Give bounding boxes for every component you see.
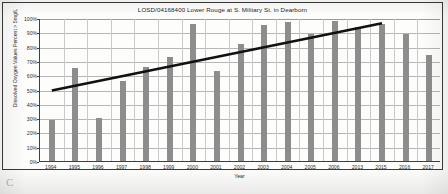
x-tick-label: 1996 (92, 164, 103, 170)
y-tick-label: 10% (3, 145, 37, 151)
page-artifact-mark: C (6, 176, 13, 188)
x-tick-label: 2005 (305, 164, 316, 170)
plot-area (39, 19, 440, 162)
y-tick-label: 40% (3, 102, 37, 108)
x-tick-label: 1997 (116, 164, 127, 170)
x-tick-label: 2001 (210, 164, 221, 170)
x-axis-title: Year (39, 173, 440, 179)
y-tick-label: 90% (3, 30, 37, 36)
figure-page: LOSD/04168400 Lower Rouge at S. Military… (0, 0, 448, 194)
x-tick-label: 1994 (45, 164, 56, 170)
y-tick-mark (37, 162, 39, 163)
x-tick-label: 2015 (375, 164, 386, 170)
x-tick-label: 2004 (281, 164, 292, 170)
x-tick-label: 2000 (187, 164, 198, 170)
chart-frame: LOSD/04168400 Lower Rouge at S. Military… (2, 2, 443, 170)
x-tick-label: 2017 (423, 164, 434, 170)
y-tick-label: 0% (3, 159, 37, 165)
x-tick-label: 1999 (163, 164, 174, 170)
x-tick-label: 2006 (328, 164, 339, 170)
chart-title: LOSD/04168400 Lower Rouge at S. Military… (3, 6, 442, 13)
x-tick-label: 2016 (399, 164, 410, 170)
y-tick-label: 30% (3, 116, 37, 122)
x-axis-tick-labels: 1994199519961997199819992000200120022003… (39, 164, 440, 173)
trendline (40, 19, 441, 162)
y-axis-tick-labels: 0%10%20%30%40%50%60%70%80%90%100% (3, 19, 37, 162)
x-tick-label: 2013 (352, 164, 363, 170)
y-tick-label: 50% (3, 88, 37, 94)
y-tick-label: 20% (3, 130, 37, 136)
y-tick-label: 60% (3, 73, 37, 79)
y-tick-label: 70% (3, 59, 37, 65)
x-tick-label: 1995 (69, 164, 80, 170)
y-tick-label: 100% (3, 16, 37, 22)
x-tick-label: 2002 (234, 164, 245, 170)
x-tick-label: 2003 (257, 164, 268, 170)
y-tick-label: 80% (3, 45, 37, 51)
x-tick-label: 1998 (139, 164, 150, 170)
